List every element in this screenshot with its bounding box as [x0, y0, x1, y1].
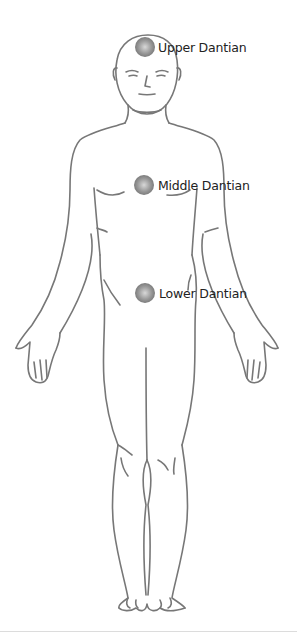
middle-dantian-marker	[134, 175, 154, 195]
lower-dantian-label: Lower Dantian	[159, 286, 247, 301]
upper-dantian-label: Upper Dantian	[158, 40, 246, 55]
middle-dantian-label: Middle Dantian	[158, 178, 250, 193]
bottom-divider	[0, 631, 297, 632]
upper-dantian-marker	[135, 37, 155, 57]
lower-dantian-marker	[135, 283, 155, 303]
body-outline-figure	[0, 0, 297, 635]
